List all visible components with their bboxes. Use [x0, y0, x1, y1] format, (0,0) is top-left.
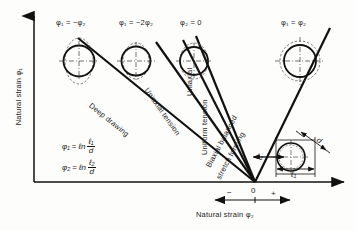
formula-phi2: φ₂ = ℓn ℓ₂ d [62, 159, 96, 177]
annotation-phi1-eq-minus-phi2: φ₁ = −φ₂ [56, 18, 86, 27]
label-uniform-tension: Uniform tension [200, 99, 209, 155]
formula-phi2-op: ℓn [79, 163, 86, 172]
ray-biaxial-balanced [255, 28, 330, 182]
grid-circle-pure-shear [59, 38, 99, 84]
formula-phi1-lhs: φ₁ [62, 142, 70, 151]
label-uniaxial: Uniaxial [185, 68, 194, 96]
formula-phi1-op: ℓn [78, 142, 85, 151]
x-axis-negative-sign: − [227, 188, 232, 197]
grid-circle-balanced-biaxial [275, 37, 325, 85]
formula-phi1: φ₁ = ℓn ℓ₁ d [62, 138, 95, 156]
fld-diagram-canvas: Natural strain φ₁ Natural strain φ₂ 0 − … [0, 0, 356, 230]
inset-label-l2: ℓ₂ [257, 152, 263, 161]
grid-circle-plane-strain [176, 43, 212, 79]
diagram-vector-layer [0, 0, 356, 230]
formula-phi2-denominator: d [88, 168, 96, 176]
x-axis-positive-sign: + [271, 189, 276, 198]
x-axis-sign-scale [215, 197, 290, 203]
formula-phi2-eq: = [72, 163, 77, 172]
origin-label: 0 [251, 186, 256, 195]
y-axis-label: Natural strain φ₁ [14, 57, 23, 137]
formula-phi2-lhs: φ₂ [62, 163, 70, 172]
annotation-phi2-eq-zero: φ₂ = 0 [180, 18, 202, 27]
formula-phi1-denominator: d [87, 147, 94, 155]
annotation-phi1-eq-phi2: φ₁ = φ₂ [281, 18, 306, 27]
annotation-phi1-eq-minus-2phi2: φ₁ = −2φ₂ [119, 18, 153, 27]
x-axis-label: Natural strain φ₂ [196, 210, 254, 219]
inset-label-l1: ℓ₁ [291, 170, 297, 179]
formula-phi1-eq: = [72, 142, 77, 151]
